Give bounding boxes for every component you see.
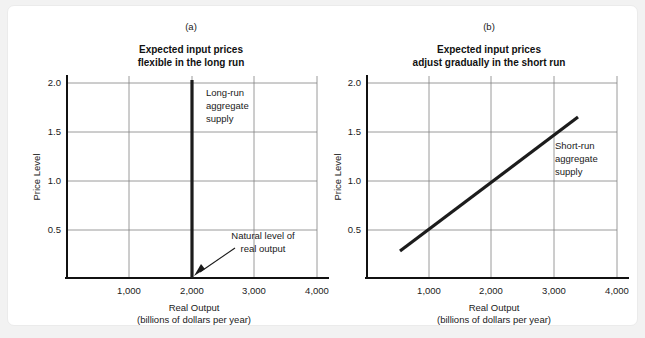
chart-panel-b: (b) Expected input prices adjust gradual…	[326, 6, 645, 327]
sras-annotation-line2: aggregate	[555, 153, 598, 164]
x-axis-title-b: Real Output	[469, 302, 520, 313]
panel-a-title-line2: flexible in the long run	[138, 57, 245, 68]
panel-b-title-line1: Expected input prices	[437, 44, 541, 55]
x-tick-label-1000: 1,000	[417, 285, 441, 296]
natural-level-arrow-line	[200, 248, 235, 272]
x-axis-title-a: Real Output	[169, 302, 220, 313]
y-tick-label-0.5: 0.5	[348, 224, 361, 235]
panel-b-id-label: (b)	[483, 21, 495, 32]
natural-level-annotation-line2: real output	[241, 243, 286, 254]
panel-b-title-line2: adjust gradually in the short run	[413, 57, 566, 68]
x-tick-label-2000: 2,000	[180, 285, 204, 296]
y-tick-label-2.0: 2.0	[48, 77, 61, 88]
y-tick-label-1.5: 1.5	[48, 126, 61, 137]
x-tick-label-2000: 2,000	[479, 285, 503, 296]
natural-level-annotation-line1: Natural level of	[231, 230, 295, 241]
figure-container: (a) Expected input prices flexible in th…	[0, 0, 645, 338]
sras-annotation-line1: Short-run	[555, 140, 595, 151]
natural-level-arrow-head	[194, 264, 205, 276]
x-tick-label-3000: 3,000	[542, 285, 566, 296]
lras-annotation-line2: aggregate	[206, 100, 249, 111]
y-tick-label-1.0: 1.0	[48, 175, 61, 186]
chart-panel-a: (a) Expected input prices flexible in th…	[16, 6, 336, 327]
chart-b-svg: (b) Expected input prices adjust gradual…	[326, 6, 645, 327]
x-tick-label-3000: 3,000	[242, 285, 266, 296]
lras-annotation-line1: Long-run	[206, 87, 244, 98]
y-axis-title-b: Price Level	[332, 154, 343, 201]
chart-a-svg: (a) Expected input prices flexible in th…	[16, 6, 336, 327]
x-axis-subtitle-b: (billions of dollars per year)	[437, 314, 551, 325]
y-tick-label-2.0: 2.0	[348, 77, 361, 88]
x-tick-label-4000: 4,000	[605, 285, 629, 296]
y-tick-label-1.5: 1.5	[348, 126, 361, 137]
x-axis-subtitle-a: (billions of dollars per year)	[137, 314, 251, 325]
panel-a-id-label: (a)	[185, 21, 197, 32]
figure-card: (a) Expected input prices flexible in th…	[7, 5, 638, 326]
short-run-aggregate-supply-curve	[400, 117, 578, 251]
sras-annotation-line3: supply	[555, 166, 583, 177]
lras-annotation-line3: supply	[206, 113, 234, 124]
x-tick-label-1000: 1,000	[117, 285, 141, 296]
y-tick-label-0.5: 0.5	[48, 224, 61, 235]
y-axis-title-a: Price Level	[31, 154, 42, 201]
y-tick-label-1.0: 1.0	[348, 175, 361, 186]
panel-a-title-line1: Expected input prices	[139, 44, 243, 55]
